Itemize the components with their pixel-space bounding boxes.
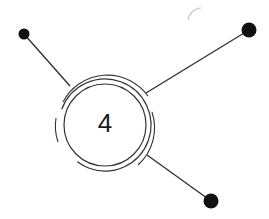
bottom-right-node[interactable] xyxy=(204,194,219,209)
connector-top-right xyxy=(146,30,249,93)
hub-arc-left xyxy=(55,118,58,142)
connector-top-left xyxy=(24,34,70,86)
top-left-node[interactable] xyxy=(19,29,30,40)
connector-bottom-right xyxy=(147,155,211,201)
hub-diagram xyxy=(0,0,269,219)
top-right-node[interactable] xyxy=(242,23,257,38)
faint-arc xyxy=(188,8,201,20)
hub-number: 4 xyxy=(80,103,130,143)
